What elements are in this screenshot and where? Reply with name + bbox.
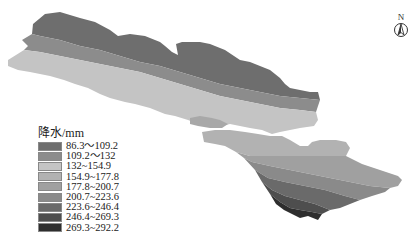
north-arrow: N bbox=[392, 13, 410, 42]
zone-155-178 bbox=[202, 130, 350, 156]
legend-swatch bbox=[38, 193, 62, 202]
legend-swatch bbox=[38, 203, 62, 212]
legend-swatch bbox=[38, 152, 62, 161]
north-label: N bbox=[392, 13, 410, 22]
legend-swatch bbox=[38, 142, 62, 151]
north-arrow-icon bbox=[393, 22, 409, 38]
legend-swatch bbox=[38, 182, 62, 191]
legend-item: 269.3~292.2 bbox=[38, 223, 119, 233]
legend-swatch bbox=[38, 172, 62, 181]
legend: 降水/mm 86.3～109.2 109.2～132 132~154.9 154… bbox=[38, 126, 119, 233]
legend-item: 246.4~269.3 bbox=[38, 212, 119, 222]
legend-swatch bbox=[38, 223, 62, 232]
legend-swatch bbox=[38, 213, 62, 222]
legend-swatch bbox=[38, 162, 62, 171]
legend-rows: 86.3～109.2 109.2～132 132~154.9 154.9~177… bbox=[38, 141, 119, 233]
legend-title: 降水/mm bbox=[38, 126, 119, 140]
legend-label: 269.3~292.2 bbox=[66, 223, 119, 233]
legend-label: 246.4~269.3 bbox=[66, 212, 119, 222]
legend-label: 132~154.9 bbox=[66, 161, 111, 171]
